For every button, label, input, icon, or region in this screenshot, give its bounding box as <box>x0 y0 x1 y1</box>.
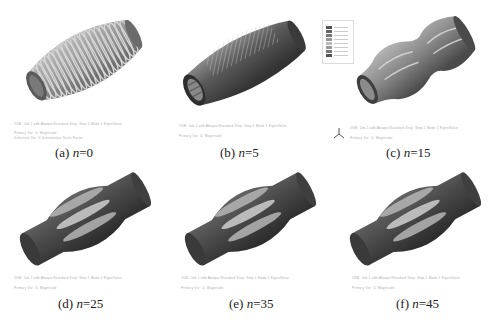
caption-label: (a) <box>55 145 73 160</box>
meta-line-2: Primary Var: U, Magnitude <box>181 286 224 290</box>
panel-b: ODB: Job-1.odb Abaqus/Standard Step: Ste… <box>165 0 325 160</box>
caption-value: =25 <box>83 296 103 311</box>
caption-f: (f) n=45 <box>396 296 439 312</box>
meta-line-1: ODB: Job-1.odb Abaqus/Standard Step: Ste… <box>352 276 460 280</box>
panel-d: ODB: Job-1.odb Abaqus/Standard Step: Ste… <box>0 160 165 320</box>
caption-label: (c) <box>386 145 404 160</box>
meta-line-2: Primary Var: U, Magnitude <box>352 286 395 290</box>
caption-a: (a) n=0 <box>55 145 93 161</box>
caption-value: =5 <box>245 145 259 160</box>
meta-line-1: ODB: Job-1.odb Abaqus/Standard Step: Ste… <box>181 276 289 280</box>
caption-value: =35 <box>253 296 273 311</box>
tube-render-c <box>320 0 495 160</box>
caption-b: (b) n=5 <box>220 145 259 161</box>
axis-triad-icon <box>332 126 346 140</box>
meta-line-2: Primary Var: U, Magnitude <box>179 134 222 138</box>
caption-label: (d) <box>58 296 76 311</box>
caption-d: (d) n=25 <box>58 296 103 312</box>
panel-f: ODB: Job-1.odb Abaqus/Standard Step: Ste… <box>330 160 495 320</box>
caption-value: =45 <box>419 296 439 311</box>
caption-label: (b) <box>220 145 238 160</box>
meta-line-3: Deformed Var: U Deformation Scale Factor <box>14 136 83 140</box>
panel-a: ODB: Job-1.odb Abaqus/Standard Step: Ste… <box>0 0 165 160</box>
meta-line-2: Primary Var: U, Magnitude <box>14 286 57 290</box>
meta-line-1: ODB: Job-1.odb Abaqus/Standard Step: Ste… <box>14 276 122 280</box>
caption-label: (f) <box>396 296 412 311</box>
caption-value: =15 <box>410 145 430 160</box>
meta-line-1: ODB: Job-1.odb Abaqus/Standard Step: Ste… <box>179 124 287 128</box>
panel-c: ODB: Job-1.odb Abaqus/Standard Step: Ste… <box>320 0 495 160</box>
caption-e: (e) n=35 <box>229 296 274 312</box>
panel-e: ODB: Job-1.odb Abaqus/Standard Step: Ste… <box>165 160 330 320</box>
caption-c: (c) n=15 <box>386 145 431 161</box>
meta-line-2: Primary Var: U, Magnitude <box>14 131 57 135</box>
meta-line-2: Primary Var: U, Magnitude <box>350 136 393 140</box>
meta-line-1: ODB: Job-1.odb Abaqus/Standard Step: Ste… <box>14 122 122 126</box>
meta-line-1: ODB: Job-1.odb Abaqus/Standard Step: Ste… <box>350 126 458 130</box>
caption-label: (e) <box>229 296 247 311</box>
caption-value: =0 <box>79 145 93 160</box>
